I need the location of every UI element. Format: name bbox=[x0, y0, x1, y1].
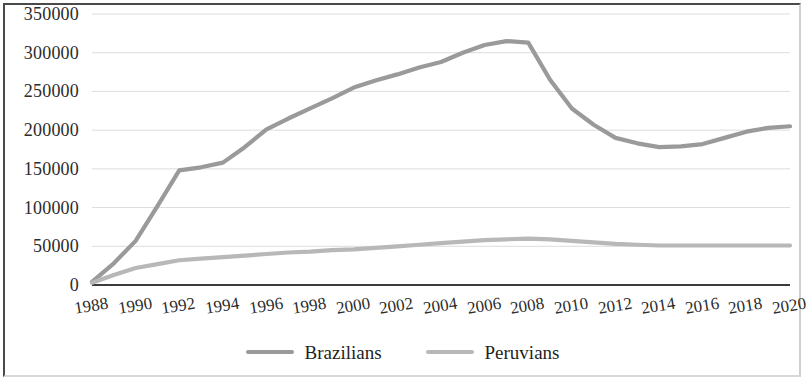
y-axis-tick-label: 150000 bbox=[24, 160, 79, 178]
y-axis-tick-label: 250000 bbox=[24, 82, 79, 100]
chart-legend: BraziliansPeruvians bbox=[0, 337, 805, 367]
y-axis-tick-label: 0 bbox=[70, 276, 79, 294]
y-axis-tick-label: 100000 bbox=[24, 199, 79, 217]
y-axis-tick-label: 300000 bbox=[24, 44, 79, 62]
gridlines bbox=[92, 14, 790, 246]
series-line-peruvians bbox=[92, 239, 790, 283]
legend-entry[interactable]: Peruvians bbox=[426, 343, 560, 362]
legend-entry[interactable]: Brazilians bbox=[246, 343, 382, 362]
legend-label: Brazilians bbox=[305, 343, 382, 362]
y-axis-tick-label: 200000 bbox=[24, 121, 79, 139]
legend-swatch-icon bbox=[246, 350, 294, 354]
legend-swatch-icon bbox=[426, 350, 474, 354]
y-axis-tick-label: 350000 bbox=[24, 5, 79, 23]
legend-label: Peruvians bbox=[485, 343, 560, 362]
y-axis-tick-label: 50000 bbox=[33, 237, 79, 255]
